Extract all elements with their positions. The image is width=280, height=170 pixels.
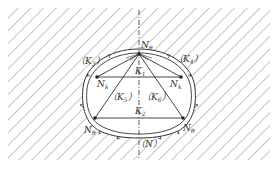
lower-right-node [181, 116, 185, 120]
apex-node [137, 52, 141, 56]
label-k5-region: （K5） [108, 92, 137, 103]
label-k4-region: （K4） [174, 54, 203, 65]
label-k6-region: （K6） [142, 92, 171, 103]
tunnel-force-diagram: Nθ （K3） （K4） K1 Nk Nk （K5） （K6） K2 Nθ Nθ… [0, 0, 280, 170]
label-k3-region: （K3） [76, 56, 105, 67]
label-axis-bottom: （N） [136, 139, 162, 149]
lower-left-node [93, 116, 97, 120]
upper-right-node [179, 75, 183, 79]
